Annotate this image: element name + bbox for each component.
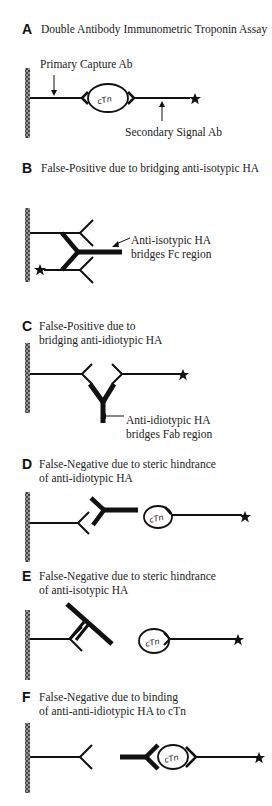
signal-star-icon bbox=[189, 93, 201, 104]
panel-e-diagram: cTn bbox=[25, 604, 244, 680]
solid-phase-wall-icon bbox=[25, 68, 30, 138]
solid-phase-wall-icon bbox=[25, 610, 30, 680]
solid-phase-wall-icon bbox=[25, 723, 30, 793]
solid-phase-wall-icon bbox=[25, 208, 30, 282]
antibody-diagrams: cTn bbox=[0, 0, 272, 806]
anti-idiotypic-ha-icon bbox=[90, 384, 114, 402]
panel-a-diagram: cTn bbox=[25, 68, 201, 138]
anti-idiotypic-ha-icon bbox=[91, 498, 104, 525]
signal-star-icon bbox=[239, 511, 251, 522]
arrow-down-icon bbox=[51, 90, 57, 96]
panel-d-diagram: cTn bbox=[25, 492, 251, 562]
panel-c-diagram bbox=[25, 343, 189, 423]
panel-b-diagram bbox=[25, 208, 130, 283]
solid-phase-wall-icon bbox=[25, 343, 30, 413]
panel-f-diagram: cTn bbox=[25, 723, 265, 793]
solid-phase-wall-icon bbox=[25, 492, 30, 562]
anti-isotypic-ha-icon bbox=[67, 604, 112, 644]
